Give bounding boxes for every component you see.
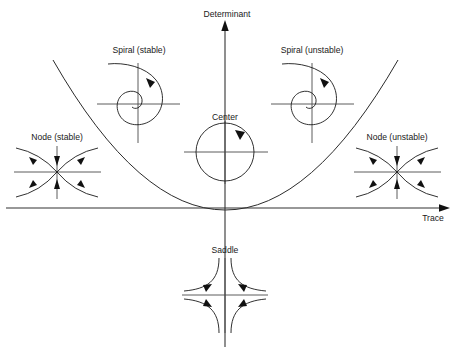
center-orbit-arrow (235, 130, 245, 140)
saddle-traj-lr (231, 299, 266, 333)
node-unstable-arrow-ur (417, 157, 425, 165)
spiral-stable-label: Spiral (stable) (112, 45, 165, 55)
saddle-label: Saddle (212, 245, 239, 255)
node-unstable-arrow-top (394, 156, 400, 166)
spiral-unstable-portrait: Spiral (unstable) (271, 45, 354, 143)
node-unstable-label: Node (unstable) (366, 132, 427, 142)
saddle-arrow-ur (238, 284, 247, 292)
node-stable-portrait: Node (stable) (14, 132, 101, 199)
saddle-arrow-ul (203, 284, 212, 292)
trace-axis-arrow (439, 204, 450, 211)
node-stable-arrow-ur (77, 157, 85, 165)
node-unstable-arrow-bottom (394, 179, 400, 189)
saddle-arrow-lr (238, 299, 247, 307)
trace-determinant-diagram: Node (stable) Spiral (stable) Center (0, 0, 464, 347)
saddle-portrait: Saddle (182, 245, 268, 333)
saddle-traj-ul (184, 258, 219, 291)
node-unstable-arrow-lr (417, 180, 425, 188)
node-stable-arrow-lr (77, 180, 85, 188)
node-stable-arrow-bottom (54, 179, 60, 189)
node-stable-arrow-ul (29, 157, 37, 165)
saddle-traj-ll (184, 299, 219, 333)
spiral-unstable-curve (282, 64, 336, 125)
node-unstable-portrait: Node (unstable) (354, 132, 441, 199)
node-unstable-arrow-ul (369, 157, 377, 165)
node-stable-arrow-top (54, 156, 60, 166)
diagram-svg: Node (stable) Spiral (stable) Center (0, 0, 464, 347)
main-axes (6, 20, 450, 347)
spiral-unstable-label: Spiral (unstable) (281, 45, 344, 55)
determinant-axis-label: Determinant (204, 9, 251, 19)
saddle-arrow-ll (203, 299, 212, 307)
trace-axis-label: Trace (422, 213, 444, 223)
spiral-unstable-arrow (320, 78, 329, 88)
determinant-axis-arrow (221, 20, 228, 31)
spiral-stable-arrow (146, 78, 155, 88)
node-stable-arrow-ll (29, 180, 37, 188)
center-label: Center (212, 112, 238, 122)
center-portrait: Center (184, 112, 268, 184)
node-stable-label: Node (stable) (31, 132, 83, 142)
spiral-stable-curve (108, 64, 162, 125)
saddle-traj-ur (231, 258, 266, 291)
node-unstable-arrow-ll (369, 180, 377, 188)
spiral-stable-portrait: Spiral (stable) (97, 45, 180, 143)
